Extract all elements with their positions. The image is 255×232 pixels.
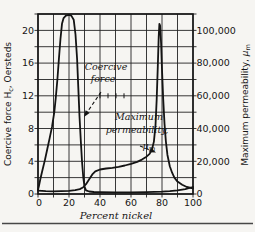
coercive-leader-line	[86, 92, 101, 114]
y-left-title-text: Coercive force H	[3, 92, 13, 166]
grid-lines	[35, 14, 197, 198]
annotation-permeability-line1: Maximum	[114, 111, 163, 122]
y-right-tick-40000: 40,000	[197, 123, 230, 134]
y-left-tick-4: 4	[28, 156, 34, 167]
x-axis-ticks: 0 20 40 60 80 100	[36, 197, 202, 208]
x-tick-20: 20	[63, 197, 75, 208]
annotation-coercive-line2: force	[90, 73, 116, 84]
y-left-tick-16: 16	[22, 57, 34, 68]
annotation-permeability-line2: permeability,	[106, 124, 169, 135]
figure-coercive-force-permeability-vs-nickel: 0 4 8 12 16 20 0 20,000 40,000 60,000 80…	[0, 0, 255, 232]
coercive-arrowhead-icon	[82, 110, 90, 118]
y-axis-left-ticks: 0 4 8 12 16 20	[22, 25, 34, 200]
y-left-title-units: , Oersteds	[3, 42, 13, 89]
x-tick-100: 100	[184, 197, 202, 208]
x-axis-title: Percent nickel	[79, 210, 153, 221]
y-left-tick-20: 20	[22, 25, 34, 36]
annotation-coercive-line1: Coercive	[85, 61, 128, 72]
y-right-tick-100000: 100,000	[197, 25, 236, 36]
y-right-tick-60000: 60,000	[197, 90, 230, 101]
x-tick-60: 60	[125, 197, 137, 208]
y-right-tick-20000: 20,000	[197, 156, 230, 167]
y-axis-right-title: Maximum permeability, μm	[240, 44, 252, 166]
x-tick-40: 40	[94, 197, 106, 208]
y-right-title-text: Maximum permeability,	[240, 56, 250, 166]
y-left-tick-12: 12	[22, 90, 34, 101]
x-tick-0: 0	[36, 197, 42, 208]
y-right-tick-80000: 80,000	[197, 57, 230, 68]
y-left-tick-8: 8	[28, 123, 34, 134]
y-axis-left-title: Coercive force Hc, Oersteds	[3, 42, 15, 166]
chart-canvas: 0 4 8 12 16 20 0 20,000 40,000 60,000 80…	[0, 0, 255, 232]
y-axis-right-ticks: 0 20,000 40,000 60,000 80,000 100,000	[197, 25, 236, 200]
x-tick-80: 80	[156, 197, 168, 208]
y-right-title-subscript: m	[244, 44, 252, 50]
annotation-coercive-force: Coercive force	[82, 61, 128, 118]
y-left-tick-0: 0	[28, 188, 34, 199]
